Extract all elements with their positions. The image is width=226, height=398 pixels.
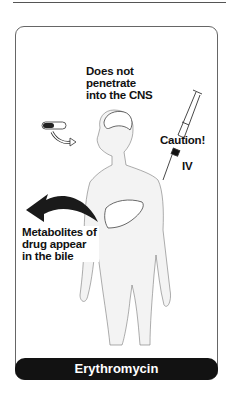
drug-title-bar: Erythromycin bbox=[15, 358, 218, 380]
arrow-icon bbox=[70, 138, 76, 146]
bile-line-1: Metabolites of bbox=[22, 226, 97, 238]
bile-line-3: in the bile bbox=[22, 250, 97, 262]
body-illustration bbox=[0, 0, 226, 398]
capsule-icon bbox=[42, 122, 66, 129]
cns-line-2: penetrate bbox=[86, 77, 153, 89]
bile-line-2: drug appear bbox=[22, 238, 97, 250]
iv-label: IV bbox=[182, 160, 192, 172]
cns-line-3: into the CNS bbox=[86, 89, 153, 101]
bile-label: Metabolites of drug appear in the bile bbox=[22, 226, 99, 262]
caution-label: Caution! bbox=[160, 134, 205, 146]
cns-line-1: Does not bbox=[86, 65, 153, 77]
cns-label: Does not penetrate into the CNS bbox=[86, 65, 153, 101]
